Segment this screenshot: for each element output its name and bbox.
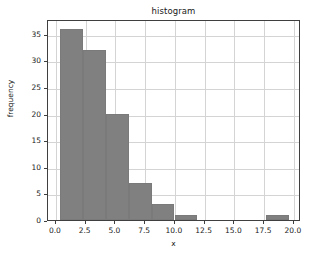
tick-mark-y [44,221,47,222]
gridline-vertical [175,21,176,220]
tick-mark-x [204,221,205,224]
tick-mark-y [44,61,47,62]
tick-mark-x [55,221,56,224]
y-axis-label: frequency [6,59,15,139]
tick-label-y: 35 [11,30,41,39]
tick-mark-y [44,194,47,195]
histogram-bar [152,204,175,220]
tick-mark-y [44,141,47,142]
tick-mark-x [174,221,175,224]
tick-label-y: 15 [11,136,41,145]
tick-label-y: 0 [11,216,41,225]
tick-label-y: 25 [11,83,41,92]
tick-label-y: 5 [11,189,41,198]
tick-mark-y [44,115,47,116]
tick-label-y: 10 [11,163,41,172]
plot-area [47,20,300,221]
histogram-bar [106,114,129,220]
tick-mark-y [44,168,47,169]
histogram-bar [266,215,289,220]
tick-mark-x [293,221,294,224]
tick-label-y: 20 [11,110,41,119]
histogram-bar [129,183,152,220]
tick-label-x: 20.0 [273,226,313,235]
histogram-bar [175,215,198,220]
histogram-bar [60,29,83,220]
gridline-horizontal [48,36,299,37]
gridline-vertical [56,21,57,220]
tick-mark-x [233,221,234,224]
histogram-figure: histogram 0.02.55.07.510.012.515.017.520… [0,0,315,254]
tick-mark-x [85,221,86,224]
gridline-vertical [264,21,265,220]
tick-mark-y [44,35,47,36]
tick-mark-x [144,221,145,224]
tick-mark-y [44,88,47,89]
tick-label-y: 30 [11,56,41,65]
gridline-vertical [205,21,206,220]
chart-title: histogram [47,6,300,16]
x-axis-label: x [47,239,300,248]
gridline-vertical [234,21,235,220]
gridline-vertical [294,21,295,220]
histogram-bar [83,50,106,220]
tick-mark-x [263,221,264,224]
tick-mark-x [114,221,115,224]
